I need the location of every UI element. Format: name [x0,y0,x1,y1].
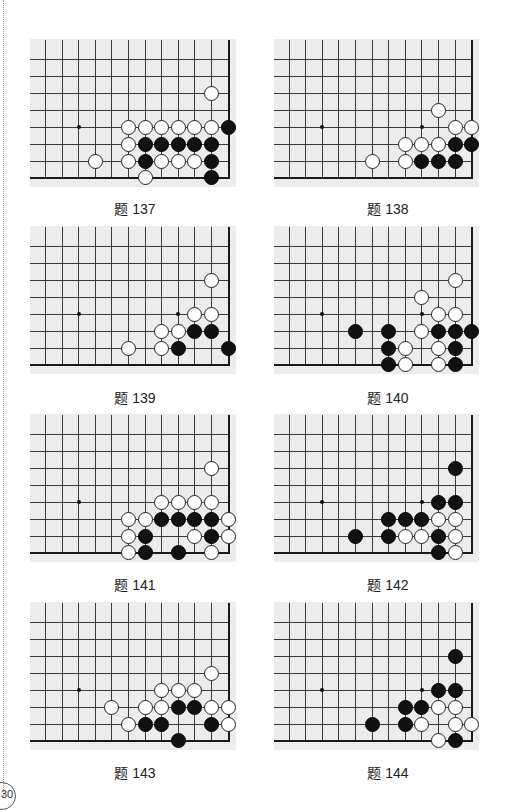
black-stone [398,700,413,715]
white-stone [121,717,136,732]
white-stone [121,529,136,544]
grid-line [274,280,472,281]
grid-line [111,40,112,177]
black-stone [448,324,463,339]
grid-line [274,639,472,640]
black-stone [348,324,363,339]
grid-line [388,40,389,177]
grid-line [30,110,228,111]
black-stone [187,137,202,152]
grid-line [178,603,179,740]
white-stone [204,495,219,510]
problem-caption: 题 140 [367,387,408,407]
grid-line [289,40,290,177]
black-stone [431,154,446,169]
problem-caption: 题 138 [367,198,408,218]
black-stone [448,683,463,698]
black-stone [138,137,153,152]
grid-line [30,468,228,469]
black-stone [221,341,236,356]
black-stone [204,324,219,339]
grid-line [305,40,306,177]
grid-line [438,603,439,740]
white-stone [221,717,236,732]
grid-line [30,59,228,60]
grid-line [62,415,63,552]
grid-line [305,415,306,552]
white-stone [121,137,136,152]
grid-line [322,415,323,552]
grid-line [95,603,96,740]
black-stone [204,512,219,527]
grid-line [305,227,306,364]
board-right-edge [471,40,473,179]
star-point [77,500,81,504]
black-stone [431,495,446,510]
problem-caption: 题 141 [114,574,155,594]
white-stone [398,137,413,152]
grid-line [211,227,212,364]
grid-line [355,227,356,364]
grid-line [274,263,472,264]
white-stone [221,512,236,527]
black-stone [187,700,202,715]
grid-line [178,415,179,552]
white-stone [448,717,463,732]
grid-line [30,656,228,657]
grid-line [78,415,79,552]
grid-line [338,415,339,552]
star-point [420,688,424,692]
white-stone [154,324,169,339]
star-point [77,312,81,316]
white-stone [138,120,153,135]
white-stone [398,529,413,544]
white-stone [414,290,429,305]
black-stone [187,324,202,339]
white-stone [104,700,119,715]
black-stone [431,529,446,544]
board-bottom-edge [30,177,230,179]
page-margin-dotted-line [3,0,4,796]
grid-line [355,40,356,177]
black-stone [448,649,463,664]
grid-line [274,673,472,674]
white-stone [138,512,153,527]
problem-caption: 题 143 [114,762,155,782]
black-stone [448,341,463,356]
black-stone [414,154,429,169]
black-stone [187,512,202,527]
white-stone [431,137,446,152]
white-stone [448,529,463,544]
white-stone [398,341,413,356]
white-stone [154,495,169,510]
grid-line [194,603,195,740]
page-number-badge: 30 [0,782,16,810]
black-stone [381,529,396,544]
white-stone [431,307,446,322]
board-bottom-edge [30,740,230,742]
white-stone [448,273,463,288]
grid-line [274,297,472,298]
white-stone [171,120,186,135]
grid-line [30,673,228,674]
grid-line [338,227,339,364]
black-stone [365,717,380,732]
white-stone [221,700,236,715]
white-stone [187,529,202,544]
white-stone [154,154,169,169]
grid-line [274,246,472,247]
black-stone [154,512,169,527]
grid-line [111,603,112,740]
black-stone [398,717,413,732]
black-stone [431,324,446,339]
black-stone [171,341,186,356]
board-right-edge [471,415,473,554]
grid-line [274,434,472,435]
grid-line [289,603,290,740]
grid-line [322,40,323,177]
grid-line [355,603,356,740]
grid-line [305,603,306,740]
black-stone [154,717,169,732]
grid-line [111,415,112,552]
grid-line [274,451,472,452]
